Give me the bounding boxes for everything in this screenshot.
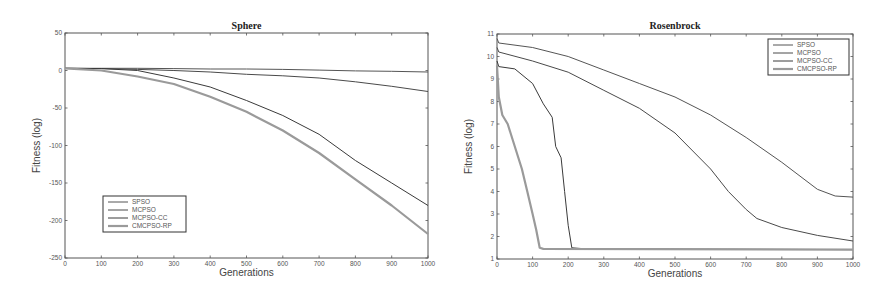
- y-tick-label: 5: [490, 165, 494, 172]
- series-line-mcpso-cc: [497, 61, 853, 250]
- series-line-cmcpso-rp: [497, 66, 853, 250]
- legend-label: SPSO: [132, 198, 150, 205]
- x-axis-label: Generations: [219, 267, 273, 278]
- y-tick-label: 0: [58, 67, 62, 74]
- x-tick-label: 1000: [421, 260, 436, 267]
- sphere-chart-panel: Sphere01002003004005006007008009001000Ge…: [0, 0, 444, 295]
- y-axis-label: Fitness (log): [31, 118, 42, 173]
- y-tick-label: 6: [490, 143, 494, 150]
- x-tick-label: 500: [670, 261, 681, 268]
- y-tick-label: -50: [53, 104, 63, 111]
- y-tick-label: 11: [487, 30, 494, 37]
- y-tick-label: -250: [49, 254, 62, 261]
- x-tick-label: 1000: [846, 261, 861, 268]
- y-tick-label: 8: [490, 98, 494, 105]
- legend-label: MCPSO-CC: [797, 57, 833, 64]
- x-tick-label: 0: [63, 260, 67, 267]
- x-tick-label: 100: [96, 260, 107, 267]
- x-tick-label: 200: [132, 260, 143, 267]
- legend-label: MCPSO-CC: [132, 214, 168, 221]
- x-tick-label: 700: [741, 261, 752, 268]
- y-tick-label: 10: [487, 53, 495, 60]
- x-tick-label: 400: [634, 261, 645, 268]
- legend-label: CMCPSO-RP: [797, 65, 837, 72]
- y-tick-label: -100: [49, 142, 62, 149]
- x-tick-label: 800: [350, 260, 361, 267]
- rosenbrock-chart: Rosenbrock010020030040050060070080090010…: [444, 0, 888, 295]
- legend-label: CMCPSO-RP: [132, 222, 172, 229]
- legend-label: SPSO: [797, 41, 815, 48]
- x-tick-label: 600: [277, 260, 288, 267]
- y-tick-label: 7: [490, 120, 494, 127]
- y-tick-label: 1: [490, 255, 494, 262]
- x-tick-label: 700: [314, 260, 325, 267]
- x-tick-label: 900: [386, 260, 397, 267]
- y-tick-label: 3: [490, 210, 494, 217]
- x-tick-label: 600: [705, 261, 716, 268]
- x-tick-label: 0: [495, 261, 499, 268]
- x-tick-label: 400: [205, 260, 216, 267]
- series-line-mcpso: [65, 68, 428, 91]
- series-line-mcpso-cc: [65, 68, 428, 205]
- chart-title: Sphere: [232, 20, 262, 31]
- rosenbrock-chart-panel: Rosenbrock010020030040050060070080090010…: [444, 0, 888, 295]
- legend-label: MCPSO: [132, 206, 156, 213]
- x-tick-label: 200: [563, 261, 574, 268]
- sphere-chart: Sphere01002003004005006007008009001000Ge…: [0, 0, 444, 295]
- y-tick-label: 9: [490, 75, 494, 82]
- series-line-mcpso: [497, 48, 853, 242]
- x-tick-label: 900: [812, 261, 823, 268]
- legend: SPSOMCPSOMCPSO-CCCMCPSO-RP: [103, 196, 186, 232]
- x-axis-label: Generations: [648, 268, 702, 279]
- x-tick-label: 300: [168, 260, 179, 267]
- y-tick-label: -200: [49, 217, 62, 224]
- x-tick-label: 500: [241, 260, 252, 267]
- y-tick-label: -150: [49, 179, 62, 186]
- y-tick-label: 2: [490, 233, 494, 240]
- x-tick-label: 100: [527, 261, 538, 268]
- y-tick-label: 4: [490, 188, 494, 195]
- legend-label: MCPSO: [797, 49, 821, 56]
- x-tick-label: 300: [598, 261, 609, 268]
- y-axis-label: Fitness (log): [463, 119, 474, 174]
- legend: SPSOMCPSOMCPSO-CCCMCPSO-RP: [768, 39, 849, 75]
- y-tick-label: 50: [55, 29, 63, 36]
- chart-title: Rosenbrock: [650, 20, 701, 31]
- x-tick-label: 800: [776, 261, 787, 268]
- y-axis: 500-50-100-150-200-250Fitness (log): [31, 29, 428, 261]
